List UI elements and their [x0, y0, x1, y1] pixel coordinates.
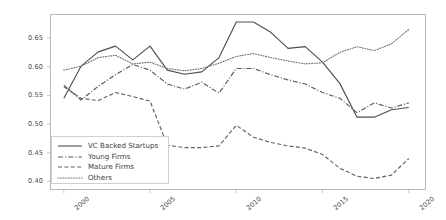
- y-tick-label: 0.45: [17, 149, 43, 157]
- y-tick-label: 0.55: [17, 91, 43, 99]
- legend-label: Mature Firms: [88, 162, 134, 172]
- legend-item-vc-backed-startups: VC Backed Startups: [57, 141, 163, 152]
- chart-legend: VC Backed Startups Young Firms Mature Fi…: [51, 136, 169, 184]
- x-tick-label: 2000: [73, 195, 91, 212]
- y-tick-label: 0.50: [17, 120, 43, 128]
- x-tick-label: 2010: [245, 195, 263, 212]
- y-tick-label: 0.40: [17, 177, 43, 185]
- y-tick-label: 0.65: [17, 34, 43, 42]
- legend-key-dotted-icon: [57, 173, 83, 183]
- y-tick-label: 0.60: [17, 63, 43, 71]
- legend-key-solid-icon: [57, 141, 83, 151]
- legend-label: Others: [88, 173, 112, 183]
- legend-item-young-firms: Young Firms: [57, 152, 163, 163]
- x-tick-label: 2005: [159, 195, 177, 212]
- legend-key-dashed-icon: [57, 162, 83, 172]
- legend-item-mature-firms: Mature Firms: [57, 162, 163, 173]
- line-chart-figure: 0.400.450.500.550.600.65 200020052010201…: [0, 0, 446, 220]
- legend-label: Young Firms: [88, 152, 130, 162]
- legend-label: VC Backed Startups: [88, 141, 158, 151]
- x-tick-label: 2020: [418, 195, 436, 212]
- x-tick-label: 2015: [331, 195, 349, 212]
- legend-key-dashdot-icon: [57, 152, 83, 162]
- legend-item-others: Others: [57, 173, 163, 184]
